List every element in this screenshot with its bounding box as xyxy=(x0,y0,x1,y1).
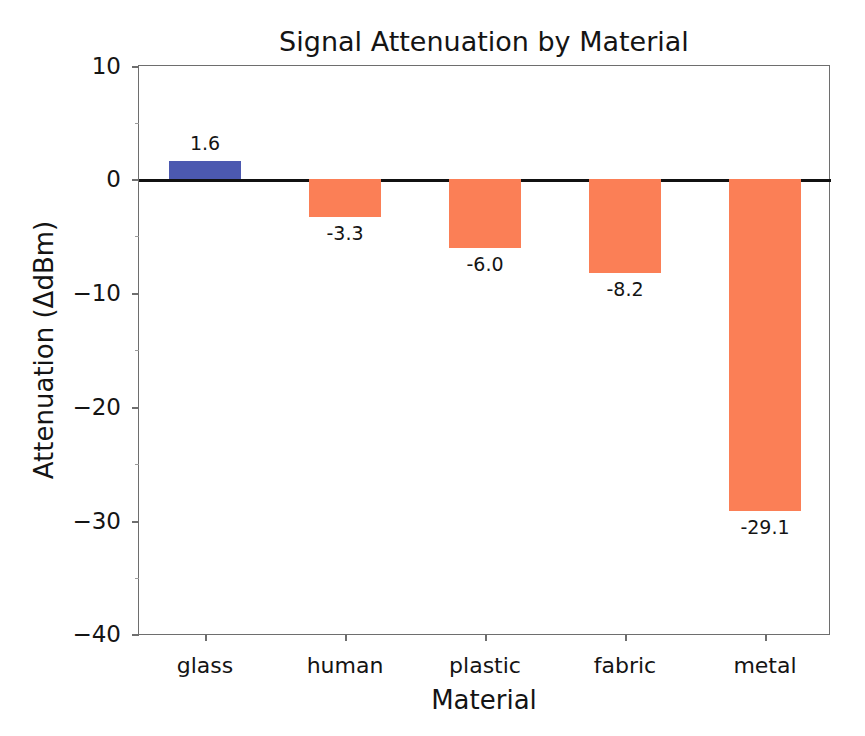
ytick-minor xyxy=(135,123,139,124)
bar-value-human: -3.3 xyxy=(326,222,363,244)
ytick-minor xyxy=(135,236,139,237)
xtick-label-fabric: fabric xyxy=(594,653,656,678)
ytick-label-neg30: −30 xyxy=(72,508,121,534)
bar-value-glass: 1.6 xyxy=(190,132,220,154)
bar-chart-figure: Signal Attenuation by Material 10 0 −10 … xyxy=(0,0,865,736)
ytick-mark-neg40: −40 xyxy=(132,634,139,636)
ytick-mark-neg10: −10 xyxy=(132,293,139,295)
ytick-label-neg20: −20 xyxy=(72,394,121,420)
ytick-label-10: 10 xyxy=(92,53,121,79)
bar-human[interactable] xyxy=(309,179,381,217)
ytick-mark-10: 10 xyxy=(132,66,139,68)
ytick-mark-0: 0 xyxy=(132,179,139,181)
xtick-label-human: human xyxy=(307,653,384,678)
bar-plastic[interactable] xyxy=(449,179,521,247)
bar-value-plastic: -6.0 xyxy=(466,253,503,275)
x-axis-title: Material xyxy=(138,685,830,715)
ytick-mark-neg20: −20 xyxy=(132,407,139,409)
xtick-label-metal: metal xyxy=(733,653,796,678)
chart-title: Signal Attenuation by Material xyxy=(138,26,830,57)
bar-glass[interactable] xyxy=(169,161,241,179)
xtick-mark-metal: metal xyxy=(765,634,767,641)
bar-value-fabric: -8.2 xyxy=(606,278,643,300)
xtick-label-plastic: plastic xyxy=(449,653,521,678)
xtick-mark-glass: glass xyxy=(205,634,207,641)
xtick-label-glass: glass xyxy=(177,653,233,678)
ytick-mark-neg30: −30 xyxy=(132,521,139,523)
ytick-minor xyxy=(135,578,139,579)
xtick-mark-fabric: fabric xyxy=(625,634,627,641)
bar-metal[interactable] xyxy=(729,179,801,511)
bar-fabric[interactable] xyxy=(589,179,661,272)
y-axis-title: Attenuation (ΔdBm) xyxy=(22,65,66,635)
bar-value-metal: -29.1 xyxy=(740,516,789,538)
ytick-minor xyxy=(135,464,139,465)
plot-area: 10 0 −10 −20 −30 −40 1.6 -3.3 -6.0 xyxy=(138,65,830,635)
ytick-minor xyxy=(135,350,139,351)
xtick-mark-plastic: plastic xyxy=(485,634,487,641)
ytick-label-0: 0 xyxy=(106,166,121,192)
ytick-label-neg10: −10 xyxy=(72,280,121,306)
xtick-mark-human: human xyxy=(345,634,347,641)
ytick-label-neg40: −40 xyxy=(72,621,121,647)
